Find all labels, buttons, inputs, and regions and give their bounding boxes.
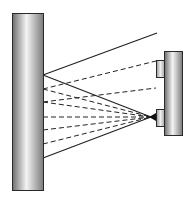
light-rays	[43, 33, 157, 158]
ray-dashed	[43, 88, 156, 102]
light-source-icon	[149, 113, 156, 121]
ray-solid	[43, 75, 151, 117]
optics-diagram	[0, 0, 192, 199]
ray-solid	[43, 117, 151, 158]
left-reflecting-column	[13, 14, 44, 191]
ray-dashed	[43, 89, 151, 117]
lower-emitter-box	[157, 110, 165, 127]
ray-dashed	[43, 117, 151, 144]
right-post	[165, 52, 183, 136]
ray-dashed	[43, 61, 156, 89]
diagram-canvas	[0, 0, 192, 199]
ray-solid	[43, 33, 157, 75]
upper-receiver-box	[157, 61, 165, 78]
ray-dashed	[43, 102, 151, 117]
